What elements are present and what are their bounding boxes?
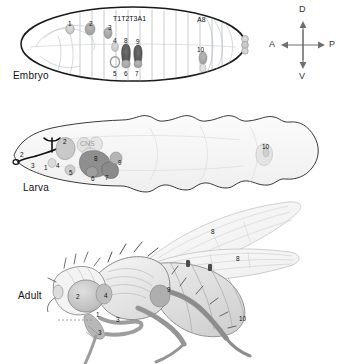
adult-marker-8a: 8 <box>211 229 215 235</box>
larva-marker-7: 7 <box>105 175 109 181</box>
adult-marker-10: 10 <box>239 316 246 322</box>
larva-marker-4: 4 <box>56 163 60 169</box>
antenna-base <box>53 285 63 299</box>
leg-mid-tarsus <box>156 344 184 362</box>
segment-label-group: T1T2T3A1 <box>113 15 146 22</box>
larva-marker-2a: 2 <box>20 152 24 158</box>
stage-label-larva: Larva <box>23 182 49 193</box>
embryo-marker-4: 4 <box>113 38 117 44</box>
leg-fore <box>100 318 142 335</box>
adult-marker-1: 1 <box>96 312 100 318</box>
embryo-marker-8: 8 <box>124 38 128 44</box>
leg-hind-tarsus <box>226 338 250 356</box>
larva-marker-1: 1 <box>44 165 48 171</box>
embryo-marker-2: 2 <box>89 21 93 27</box>
primordium-10-lower <box>200 64 206 72</box>
compass-label-ventral: V <box>299 72 305 81</box>
embryo-marker-5: 5 <box>113 71 117 77</box>
larva-marker-6: 6 <box>91 176 95 182</box>
arrow-dorsal <box>300 21 307 28</box>
compass-label-posterior: P <box>329 40 335 49</box>
embryo-marker-7: 7 <box>135 71 139 77</box>
primordium-10 <box>199 52 207 65</box>
larva-drawing <box>0 100 338 205</box>
arrow-anterior <box>281 42 288 49</box>
arrow-ventral <box>300 62 307 69</box>
adult-marker-9: 9 <box>167 287 171 293</box>
stage-label-embryo: Embryo <box>13 70 49 81</box>
larva-panel <box>0 100 338 205</box>
embryo-marker-1: 1 <box>68 21 72 27</box>
segment-label-a8: A8 <box>197 16 206 23</box>
leg-fore-tarsus <box>84 336 96 364</box>
larva-marker-9: 9 <box>118 160 122 166</box>
primordium-6 <box>122 60 130 68</box>
embryo-marker-6: 6 <box>124 71 128 77</box>
primordium-7 <box>134 60 142 68</box>
larva-marker-3: 3 <box>31 163 35 169</box>
larva-marker-10: 10 <box>262 144 269 150</box>
adult-drawing <box>0 200 338 364</box>
adult-panel <box>0 200 338 364</box>
compass-label-dorsal: D <box>299 5 306 14</box>
compass-label-anterior: A <box>269 40 275 49</box>
stage-label-adult: Adult <box>18 290 42 301</box>
larva-marker-2: 2 <box>63 139 67 145</box>
larva-cns-label: CNS <box>80 140 95 147</box>
embryo-marker-10: 10 <box>197 47 204 53</box>
adult-marker-4: 4 <box>104 293 108 299</box>
embryo-marker-9: 9 <box>136 39 140 45</box>
arrow-posterior <box>318 42 325 49</box>
adult-marker-8b: 8 <box>236 256 240 262</box>
pole-cells <box>242 35 249 54</box>
larva-disc-4 <box>48 159 56 168</box>
adult-marker-3b: 3 <box>116 317 120 323</box>
adult-marker-3a: 3 <box>98 330 102 336</box>
embryo-marker-3: 3 <box>108 25 112 31</box>
adult-marker-2: 2 <box>76 294 80 300</box>
larva-marker-8: 8 <box>94 156 98 162</box>
larva-marker-5: 5 <box>69 170 73 176</box>
